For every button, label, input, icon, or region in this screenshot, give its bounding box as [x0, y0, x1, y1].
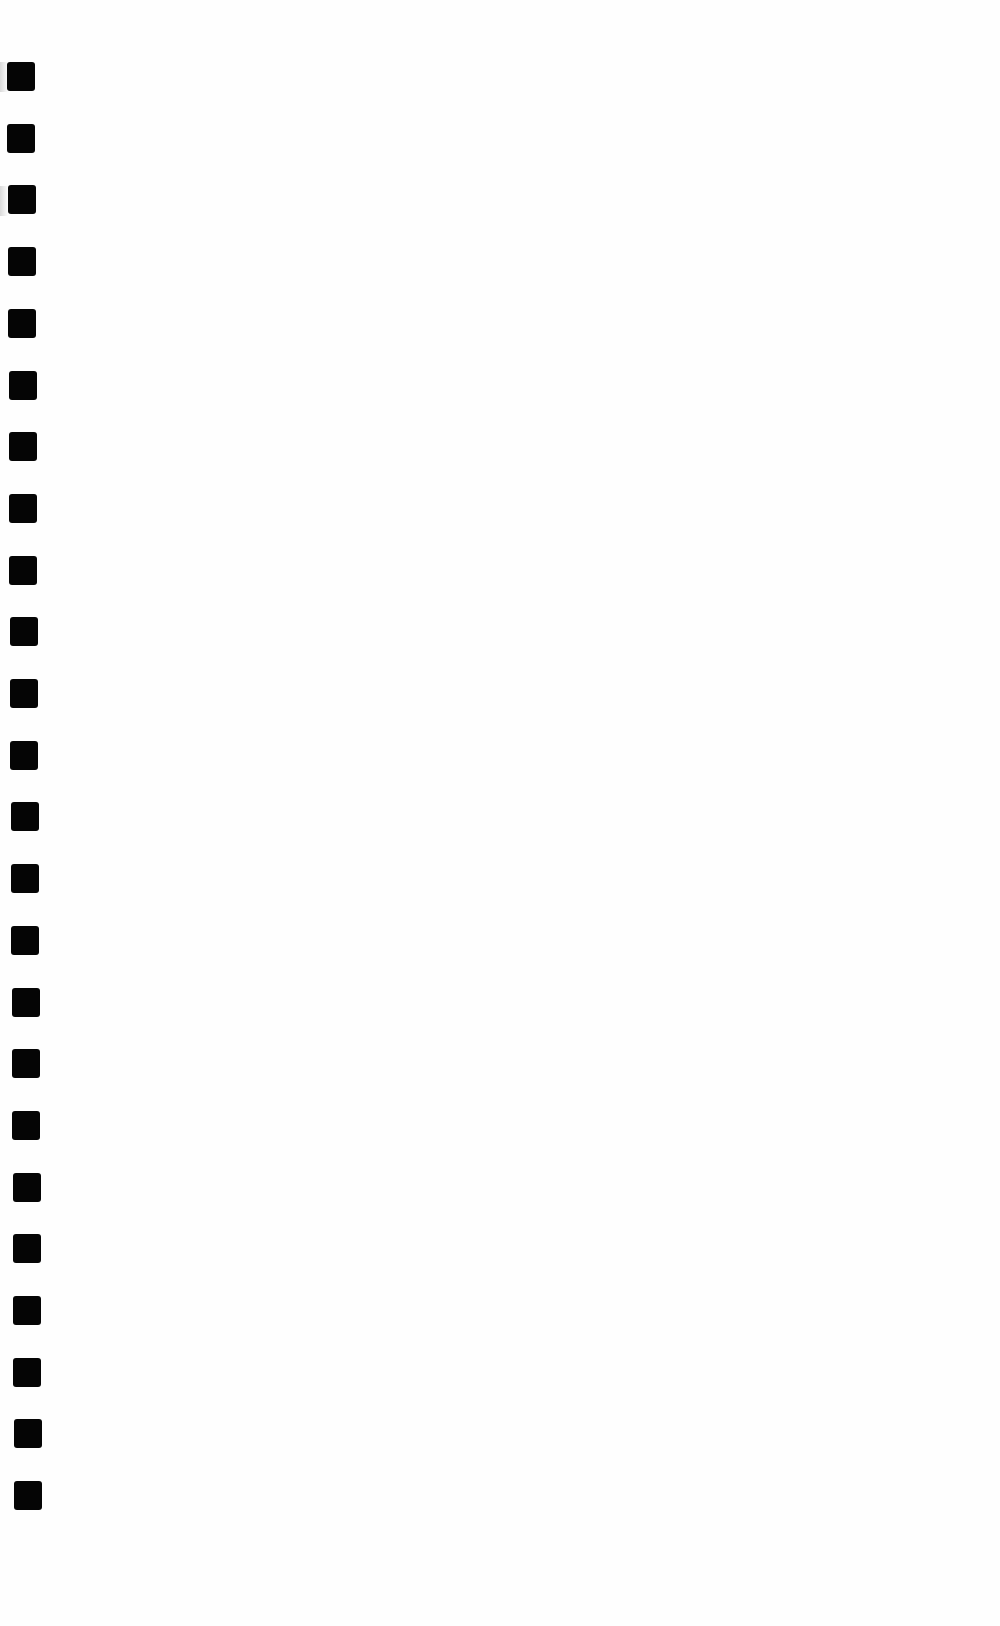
punch-hole-mark [10, 617, 38, 646]
punch-hole-mark [12, 988, 40, 1017]
punch-hole-mark [13, 1234, 41, 1263]
punch-hole-mark [11, 864, 39, 893]
punch-hole-mark [8, 309, 36, 338]
punch-hole-mark [12, 1049, 40, 1078]
punch-hole-mark [13, 1358, 41, 1387]
punch-hole-mark [8, 247, 36, 276]
punch-hole-mark [10, 679, 38, 708]
punch-hole-mark [7, 62, 35, 91]
punch-hole-mark [14, 1481, 42, 1510]
punch-hole-mark [11, 802, 39, 831]
punch-hole-mark [10, 741, 38, 770]
punch-hole-mark [7, 124, 35, 153]
punch-hole-mark [13, 1296, 41, 1325]
punch-hole-mark [9, 556, 37, 585]
punch-hole-mark [13, 1173, 41, 1202]
punch-hole-mark [9, 432, 37, 461]
punch-hole-mark [9, 494, 37, 523]
punch-hole-mark [11, 926, 39, 955]
punch-hole-mark [14, 1419, 42, 1448]
punch-hole-margin [0, 0, 60, 1626]
punch-hole-mark [12, 1111, 40, 1140]
punch-hole-mark [9, 371, 37, 400]
punch-hole-mark [8, 185, 36, 214]
blank-scanned-page [0, 0, 1000, 1626]
